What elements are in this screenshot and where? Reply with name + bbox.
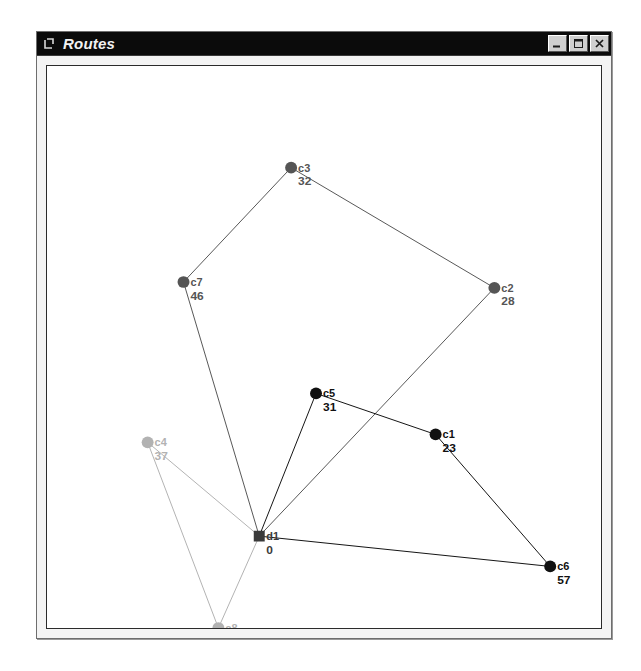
route-edge — [184, 168, 292, 282]
route-edge — [259, 393, 316, 536]
node-label-c1: c1 — [443, 428, 455, 440]
route-canvas[interactable]: d10c123c228c332c437c531c657c746c841 — [46, 65, 602, 629]
minimize-icon — [551, 38, 564, 49]
graph-node-c3[interactable]: c332 — [285, 162, 312, 189]
graph-node-c7[interactable]: c746 — [178, 276, 205, 303]
window-titlebar[interactable]: Routes — [37, 32, 611, 56]
node-label-c5: c5 — [323, 387, 335, 399]
screenshot-root: Routes — [0, 0, 641, 671]
node-demand-c1: 23 — [443, 441, 457, 455]
minimize-button[interactable] — [548, 35, 567, 52]
customer-marker — [544, 561, 556, 573]
node-label-d1: d1 — [266, 530, 279, 542]
route-graph: d10c123c228c332c437c531c657c746c841 — [47, 66, 601, 628]
node-label-c2: c2 — [501, 282, 513, 294]
graph-node-c6[interactable]: c657 — [544, 560, 571, 587]
route-edge — [259, 288, 494, 536]
route-edge — [291, 168, 494, 288]
depot-marker — [254, 531, 265, 542]
node-demand-c5: 31 — [323, 400, 337, 414]
node-label-c7: c7 — [190, 276, 202, 288]
close-button[interactable] — [590, 35, 609, 52]
customer-marker — [142, 436, 154, 448]
node-label-c8: c8 — [225, 622, 237, 628]
graph-node-c2[interactable]: c228 — [488, 282, 515, 309]
customer-marker — [430, 429, 442, 441]
graph-node-c8[interactable]: c841 — [212, 622, 239, 628]
close-icon — [593, 38, 606, 49]
node-demand-c2: 28 — [501, 295, 515, 309]
customer-marker — [178, 276, 190, 288]
window-title: Routes — [63, 35, 115, 52]
graph-node-c4[interactable]: c437 — [142, 436, 169, 463]
node-label-c4: c4 — [155, 436, 167, 448]
node-demand-c6: 57 — [557, 573, 571, 587]
node-demand-c7: 46 — [190, 289, 204, 303]
customer-marker — [285, 162, 297, 174]
node-demand-d1: 0 — [266, 543, 273, 557]
maximize-icon — [572, 38, 585, 49]
route-nodes-layer: d10c123c228c332c437c531c657c746c841 — [142, 162, 571, 628]
customer-marker — [212, 622, 224, 628]
node-demand-c4: 37 — [155, 449, 169, 463]
route-edge — [148, 442, 219, 628]
route-edges-layer — [148, 168, 551, 628]
node-label-c3: c3 — [298, 162, 310, 174]
route-edge — [218, 536, 259, 628]
routes-window: Routes — [36, 31, 612, 639]
customer-marker — [310, 388, 322, 400]
customer-marker — [488, 282, 500, 294]
window-bracket-icon — [43, 37, 57, 51]
node-demand-c3: 32 — [298, 174, 312, 188]
graph-node-c1[interactable]: c123 — [430, 428, 457, 455]
node-label-c6: c6 — [557, 560, 569, 572]
graph-node-d1[interactable]: d10 — [254, 530, 279, 557]
graph-node-c5[interactable]: c531 — [310, 387, 337, 414]
maximize-button[interactable] — [569, 35, 588, 52]
route-edge — [259, 536, 550, 566]
route-edge — [184, 282, 260, 536]
window-client-area: d10c123c228c332c437c531c657c746c841 — [37, 56, 611, 638]
